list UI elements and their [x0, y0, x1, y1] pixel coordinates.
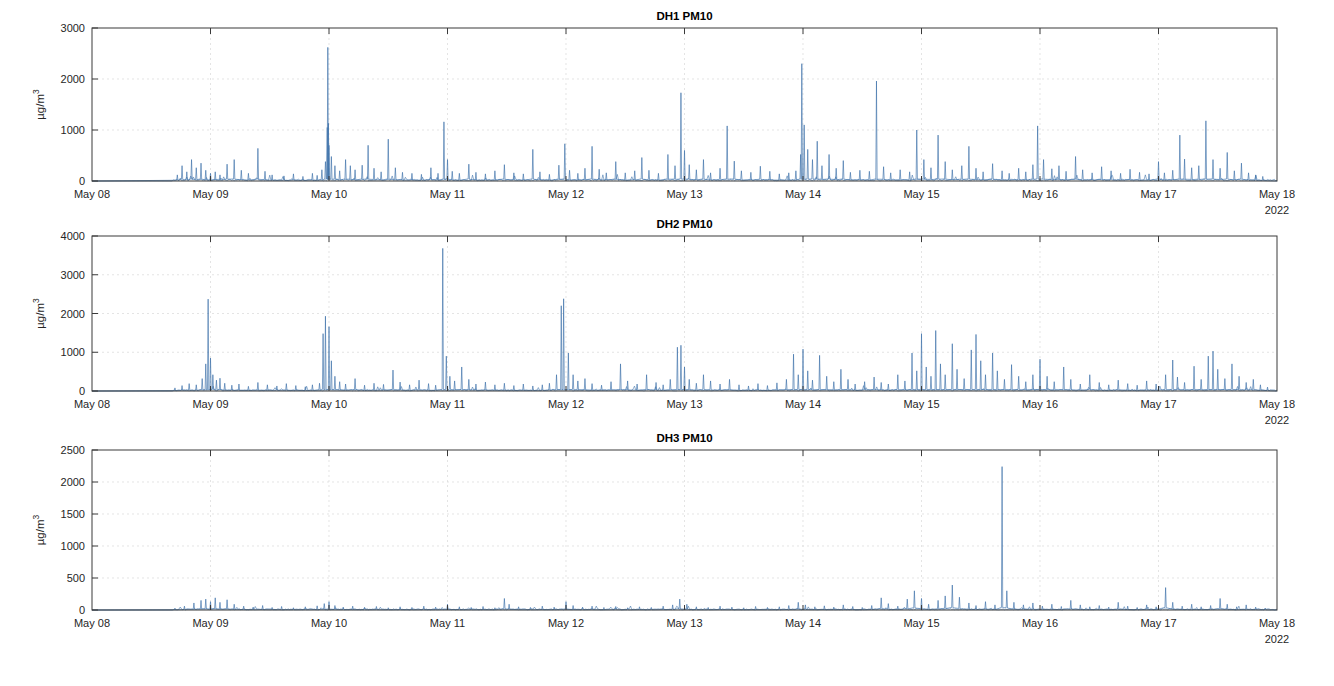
- y-tick-label: 2000: [61, 73, 85, 85]
- x-tick-label: May 18: [1259, 398, 1295, 410]
- x-tick-label: May 11: [430, 398, 465, 410]
- y-tick-label: 0: [79, 175, 85, 187]
- x-tick-label: May 13: [666, 188, 702, 200]
- y-tick-label: 0: [79, 604, 85, 616]
- subplot-2: DH2 PM1001000200030004000May 08May 09May…: [0, 214, 1334, 439]
- chart-canvas-2: DH2 PM1001000200030004000May 08May 09May…: [0, 214, 1334, 439]
- x-tick-label: May 08: [74, 617, 110, 629]
- x-tick-label: May 18: [1259, 617, 1295, 629]
- y-axis-label: µg/m3: [31, 298, 46, 329]
- y-tick-label: 1000: [61, 124, 85, 136]
- x-tick-label: May 12: [548, 398, 584, 410]
- y-tick-label: 3000: [61, 269, 85, 281]
- x-tick-label: May 11: [430, 188, 465, 200]
- x-tick-label: May 14: [785, 188, 821, 200]
- svg-text:µg/m3: µg/m3: [31, 298, 46, 329]
- x-tick-label: May 15: [903, 398, 939, 410]
- svg-text:µg/m3: µg/m3: [31, 89, 46, 120]
- chart-canvas-3: DH3 PM1005001000150020002500May 08May 09…: [0, 428, 1334, 658]
- subplot-3: DH3 PM1005001000150020002500May 08May 09…: [0, 428, 1334, 658]
- chart-title: DH2 PM10: [656, 218, 712, 230]
- y-tick-label: 2500: [61, 444, 85, 456]
- y-tick-label: 1000: [61, 346, 85, 358]
- x-tick-label: May 12: [548, 188, 584, 200]
- y-tick-label: 1500: [61, 508, 85, 520]
- x-tick-label: May 10: [311, 398, 347, 410]
- x-tick-label: May 08: [74, 188, 110, 200]
- x-tick-label: May 09: [192, 617, 228, 629]
- y-tick-label: 2000: [61, 308, 85, 320]
- x-tick-label: May 16: [1022, 188, 1058, 200]
- x-tick-label: May 15: [903, 188, 939, 200]
- x-tick-label: May 10: [311, 617, 347, 629]
- y-tick-label: 0: [79, 385, 85, 397]
- x-tick-label: May 08: [74, 398, 110, 410]
- x-tick-label: May 09: [192, 398, 228, 410]
- x-tick-label: May 09: [192, 188, 228, 200]
- chart-title: DH1 PM10: [656, 10, 712, 22]
- subplot-1: DH1 PM100100020003000May 08May 09May 10M…: [0, 6, 1334, 229]
- x-tick-label: May 13: [666, 617, 702, 629]
- x-tick-label: May 15: [903, 617, 939, 629]
- x-tick-label: May 18: [1259, 188, 1295, 200]
- x-tick-label: May 17: [1140, 617, 1176, 629]
- pm10-figure: DH1 PM100100020003000May 08May 09May 10M…: [0, 0, 1334, 686]
- x-tick-label: May 14: [785, 398, 821, 410]
- y-tick-label: 500: [67, 572, 85, 584]
- y-axis-label: µg/m3: [31, 89, 46, 120]
- year-annotation: 2022: [1265, 414, 1289, 426]
- chart-canvas-1: DH1 PM100100020003000May 08May 09May 10M…: [0, 6, 1334, 229]
- y-axis-label: µg/m3: [31, 514, 46, 545]
- y-tick-label: 1000: [61, 540, 85, 552]
- data-series-line: [92, 248, 1277, 391]
- svg-text:µg/m3: µg/m3: [31, 514, 46, 545]
- chart-title: DH3 PM10: [656, 432, 712, 444]
- x-tick-label: May 16: [1022, 398, 1058, 410]
- y-tick-label: 2000: [61, 476, 85, 488]
- x-tick-label: May 16: [1022, 617, 1058, 629]
- x-tick-label: May 11: [430, 617, 465, 629]
- x-tick-label: May 17: [1140, 398, 1176, 410]
- x-tick-label: May 17: [1140, 188, 1176, 200]
- data-series-line: [92, 467, 1277, 610]
- x-tick-label: May 14: [785, 617, 821, 629]
- year-annotation: 2022: [1265, 633, 1289, 645]
- y-tick-label: 3000: [61, 22, 85, 34]
- x-tick-label: May 12: [548, 617, 584, 629]
- y-tick-label: 4000: [61, 230, 85, 242]
- x-tick-label: May 10: [311, 188, 347, 200]
- x-tick-label: May 13: [666, 398, 702, 410]
